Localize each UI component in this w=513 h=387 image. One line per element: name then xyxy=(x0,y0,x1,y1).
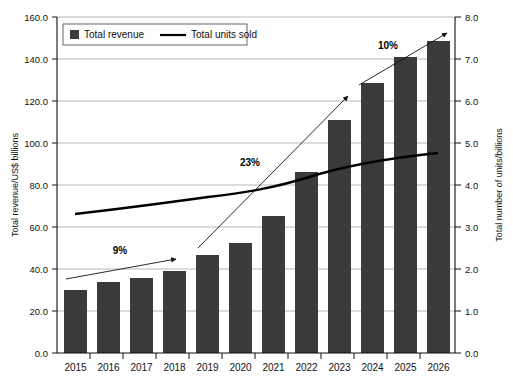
bar-2019[interactable] xyxy=(196,255,219,353)
y-tick-100: 100.0 xyxy=(24,138,48,149)
x-label-2022: 2022 xyxy=(295,362,318,373)
legend: Total revenue Total units sold xyxy=(63,24,257,45)
bar-2018[interactable] xyxy=(163,271,186,353)
left-axis-tick-labels: 160.0 140.0 120.0 100.0 80.0 60.0 40.0 2… xyxy=(24,12,48,359)
x-axis-category-labels: 2015 2016 2017 2018 2019 2020 2021 2022 … xyxy=(64,362,450,373)
bar-2025[interactable] xyxy=(394,57,417,353)
bar-2024[interactable] xyxy=(361,83,384,353)
growth-label-10pct: 10% xyxy=(378,40,398,51)
y-tick-60: 60.0 xyxy=(30,222,49,233)
x-label-2025: 2025 xyxy=(394,362,417,373)
y-tick-120: 120.0 xyxy=(24,96,48,107)
y2-tick-7: 7.0 xyxy=(465,54,478,65)
growth-label-9pct: 9% xyxy=(113,245,128,256)
y-tick-140: 140.0 xyxy=(24,54,48,65)
bar-2026[interactable] xyxy=(427,41,450,353)
y2-tick-5: 5.0 xyxy=(465,138,478,149)
left-axis-title: Total revenue/US$ billions xyxy=(10,132,20,237)
bar-2017[interactable] xyxy=(130,278,153,353)
x-label-2015: 2015 xyxy=(64,362,87,373)
y-tick-160: 160.0 xyxy=(24,12,48,23)
bar-2015[interactable] xyxy=(64,290,87,353)
bar-2016[interactable] xyxy=(97,282,120,353)
chart-container: 9% 23% 10% 160.0 140.0 120.0 100.0 80.0 … xyxy=(0,0,513,387)
bar-2020[interactable] xyxy=(229,243,252,353)
y2-tick-2: 2.0 xyxy=(465,264,478,275)
bar-2021[interactable] xyxy=(262,216,285,353)
left-axis-ticks xyxy=(52,17,57,353)
x-label-2024: 2024 xyxy=(361,362,384,373)
right-axis-ticks xyxy=(455,17,461,353)
bar-2022[interactable] xyxy=(295,172,318,353)
x-label-2016: 2016 xyxy=(97,362,120,373)
right-axis-tick-labels: 8.0 7.0 6.0 5.0 4.0 3.0 2.0 1.0 0.0 xyxy=(465,12,478,359)
y2-tick-4: 4.0 xyxy=(465,180,478,191)
y-tick-40: 40.0 xyxy=(30,264,49,275)
y2-tick-8: 8.0 xyxy=(465,12,478,23)
x-label-2026: 2026 xyxy=(427,362,450,373)
y-tick-20: 20.0 xyxy=(30,306,49,317)
growth-label-23pct: 23% xyxy=(240,157,260,168)
x-label-2020: 2020 xyxy=(229,362,252,373)
y-tick-80: 80.0 xyxy=(30,180,49,191)
y2-tick-0: 0.0 xyxy=(465,348,478,359)
x-axis-ticks xyxy=(90,353,420,359)
y2-tick-1: 1.0 xyxy=(465,306,478,317)
revenue-units-combo-chart: 9% 23% 10% 160.0 140.0 120.0 100.0 80.0 … xyxy=(0,0,513,387)
bar-2023[interactable] xyxy=(328,120,351,353)
y2-tick-3: 3.0 xyxy=(465,222,478,233)
x-label-2017: 2017 xyxy=(130,362,153,373)
legend-label-total-revenue: Total revenue xyxy=(84,29,144,40)
right-axis-title: Total number of units/billions xyxy=(494,128,504,242)
x-label-2019: 2019 xyxy=(196,362,219,373)
x-label-2018: 2018 xyxy=(163,362,186,373)
legend-swatch-total-revenue xyxy=(70,30,79,39)
y2-tick-6: 6.0 xyxy=(465,96,478,107)
x-label-2021: 2021 xyxy=(262,362,285,373)
x-label-2023: 2023 xyxy=(328,362,351,373)
y-tick-0: 0.0 xyxy=(35,348,48,359)
legend-label-total-units-sold: Total units sold xyxy=(191,29,257,40)
